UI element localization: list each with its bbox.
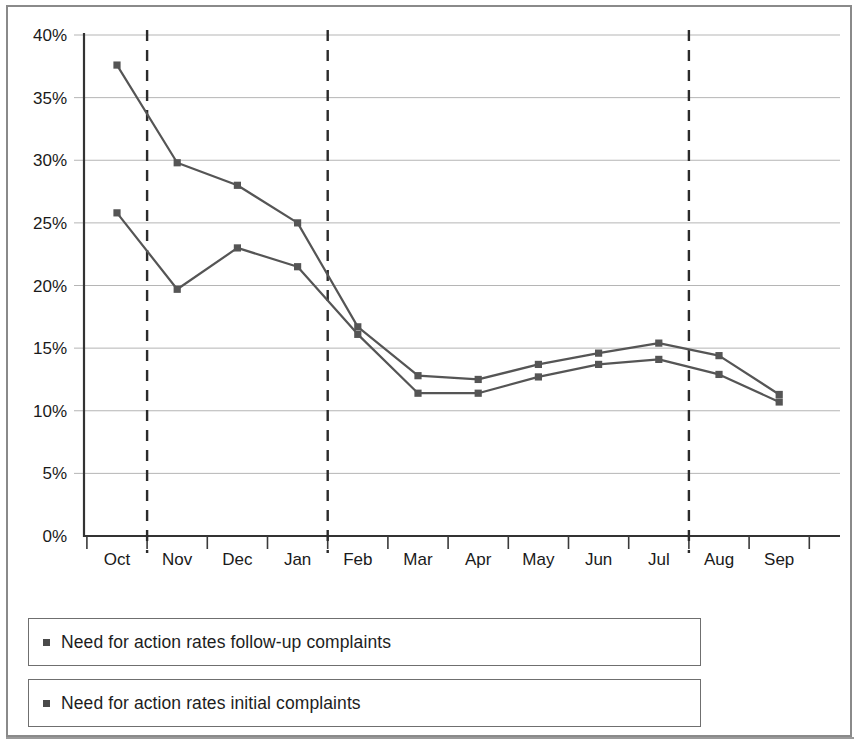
y-axis-tick-label: 25%	[33, 214, 67, 233]
data-point-marker	[475, 390, 482, 397]
data-point-marker	[475, 376, 482, 383]
data-point-marker	[354, 331, 361, 338]
line-chart: 0%5%10%15%20%25%30%35%40% OctNovDecJanFe…	[0, 0, 859, 600]
x-axis-tick-labels: OctNovDecJanFebMarAprMayJunJulAugSep	[104, 550, 795, 569]
data-point-marker	[535, 361, 542, 368]
chart-page: 0%5%10%15%20%25%30%35%40% OctNovDecJanFe…	[0, 0, 859, 743]
x-axis-tick-label: Sep	[764, 550, 794, 569]
data-point-marker	[776, 398, 783, 405]
x-axis-tick-label: Aug	[704, 550, 734, 569]
y-axis-tick-label: 5%	[42, 464, 67, 483]
data-point-marker	[655, 356, 662, 363]
data-point-marker	[113, 209, 120, 216]
x-axis-tick-label: Apr	[465, 550, 492, 569]
legend-item-label: Need for action rates initial complaints	[61, 693, 361, 714]
data-point-marker	[715, 371, 722, 378]
series-line-2	[117, 213, 779, 402]
x-axis-tick-label: Oct	[104, 550, 131, 569]
data-point-marker	[234, 182, 241, 189]
y-axis-tick-label: 30%	[33, 151, 67, 170]
data-point-marker	[776, 391, 783, 398]
chart-legend: Need for action rates follow-up complain…	[28, 618, 701, 740]
legend-marker-square-icon	[43, 700, 50, 707]
annotation-dashed-lines	[147, 30, 689, 553]
y-axis-tick-label: 40%	[33, 26, 67, 45]
data-point-marker	[294, 219, 301, 226]
legend-item-initial[interactable]: Need for action rates initial complaints	[28, 679, 701, 727]
series-line-1	[117, 65, 779, 394]
x-axis-tick-label: Mar	[403, 550, 433, 569]
y-axis-tick-label: 20%	[33, 277, 67, 296]
x-axis-tick-label: Jun	[585, 550, 612, 569]
y-axis-tick-label: 35%	[33, 89, 67, 108]
data-point-marker	[294, 263, 301, 270]
legend-item-follow-up[interactable]: Need for action rates follow-up complain…	[28, 618, 701, 666]
data-point-marker	[595, 350, 602, 357]
y-axis-tick-labels: 0%5%10%15%20%25%30%35%40%	[33, 26, 67, 546]
data-point-marker	[234, 244, 241, 251]
y-axis-tick-label: 15%	[33, 339, 67, 358]
x-axis-tick-label: Jan	[284, 550, 311, 569]
data-point-marker	[174, 159, 181, 166]
data-point-marker	[354, 323, 361, 330]
x-axis-ticks	[87, 536, 809, 549]
series-markers	[113, 61, 782, 405]
chart-svg: 0%5%10%15%20%25%30%35%40% OctNovDecJanFe…	[0, 0, 859, 600]
x-axis-tick-label: Dec	[222, 550, 253, 569]
y-axis-tick-label: 0%	[42, 527, 67, 546]
data-point-marker	[595, 361, 602, 368]
data-point-marker	[414, 372, 421, 379]
series-lines	[117, 65, 779, 402]
x-axis-tick-label: Nov	[162, 550, 193, 569]
data-point-marker	[655, 340, 662, 347]
data-point-marker	[113, 61, 120, 68]
legend-item-label: Need for action rates follow-up complain…	[61, 632, 391, 653]
x-axis-tick-label: Feb	[343, 550, 372, 569]
data-point-marker	[535, 373, 542, 380]
x-axis-tick-label: May	[522, 550, 555, 569]
gridlines	[74, 35, 840, 473]
data-point-marker	[715, 352, 722, 359]
data-point-marker	[174, 286, 181, 293]
legend-marker-square-icon	[43, 639, 50, 646]
y-axis-tick-label: 10%	[33, 402, 67, 421]
x-axis-tick-label: Jul	[648, 550, 670, 569]
data-point-marker	[414, 390, 421, 397]
